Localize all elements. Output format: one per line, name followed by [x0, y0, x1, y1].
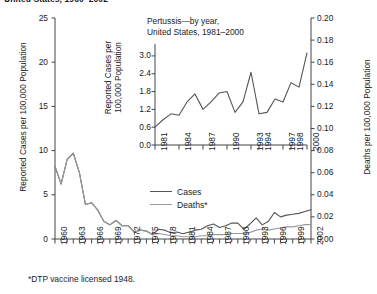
- legend-swatch-cases: [150, 191, 172, 192]
- x-tick-1984: 1984: [205, 226, 215, 245]
- x-tick-2002: 2002: [315, 226, 325, 245]
- x-tick-1975: 1975: [150, 226, 160, 245]
- right-tick-0.12: 0.12: [317, 101, 333, 111]
- legend-item-deaths: Deaths*: [150, 198, 208, 211]
- inset-y-tick-0.6: 0.6: [125, 122, 151, 132]
- x-tick-1981: 1981: [187, 226, 197, 245]
- left-tick-15: 15: [24, 101, 48, 111]
- inset-x-tick-1990: 1990: [231, 132, 241, 151]
- legend: Cases Deaths*: [150, 185, 208, 211]
- legend-label-deaths: Deaths*: [177, 200, 208, 210]
- left-tick-5: 5: [24, 189, 48, 199]
- x-tick-1978: 1978: [168, 226, 178, 245]
- x-tick-1996: 1996: [278, 226, 288, 245]
- inset-y-tick-1.8: 1.8: [125, 86, 151, 96]
- right-tick-0.04: 0.04: [317, 189, 333, 199]
- inset-chart-plot: [95, 16, 315, 181]
- inset-y-tick-0.0: 0.0: [125, 140, 151, 150]
- x-tick-1966: 1966: [95, 226, 105, 245]
- right-tick-0.18: 0.18: [317, 35, 333, 45]
- inset-x-tick-1994: 1994: [263, 132, 273, 151]
- x-tick-1987: 1987: [223, 226, 233, 245]
- left-tick-10: 10: [24, 145, 48, 155]
- inset-y-tick-3.0: 3.0: [125, 50, 151, 60]
- right-tick-0.02: 0.02: [317, 211, 333, 221]
- right-tick-0.16: 0.16: [317, 57, 333, 67]
- legend-swatch-deaths: [150, 204, 172, 205]
- x-tick-1972: 1972: [132, 226, 142, 245]
- x-tick-1993: 1993: [260, 226, 270, 245]
- right-tick-0.06: 0.06: [317, 167, 333, 177]
- inset-y-tick-2.4: 2.4: [125, 68, 151, 78]
- x-tick-1960: 1960: [59, 226, 69, 245]
- inset-x-tick-1987: 1987: [207, 132, 217, 151]
- inset-chart: Pertussis—by year, United States, 1981–2…: [95, 16, 315, 181]
- left-tick-25: 25: [24, 13, 48, 23]
- inset-x-tick-2000: 2000: [311, 132, 321, 151]
- right-tick-0.14: 0.14: [317, 79, 333, 89]
- x-tick-1963: 1963: [77, 226, 87, 245]
- x-tick-1969: 1969: [113, 226, 123, 245]
- inset-x-tick-1981: 1981: [159, 132, 169, 151]
- inset-x-tick-1998: 1998: [295, 132, 305, 151]
- right-tick-0.20: 0.20: [317, 13, 333, 23]
- footnote: *DTP vaccine licensed 1948.: [28, 274, 135, 284]
- inset-y-tick-1.2: 1.2: [125, 104, 151, 114]
- x-tick-1990: 1990: [241, 226, 251, 245]
- left-tick-20: 20: [24, 57, 48, 67]
- inset-x-tick-1984: 1984: [183, 132, 193, 151]
- x-tick-1999: 1999: [296, 226, 306, 245]
- legend-label-cases: Cases: [177, 187, 201, 197]
- legend-item-cases: Cases: [150, 185, 208, 198]
- left-tick-0: 0: [24, 234, 48, 244]
